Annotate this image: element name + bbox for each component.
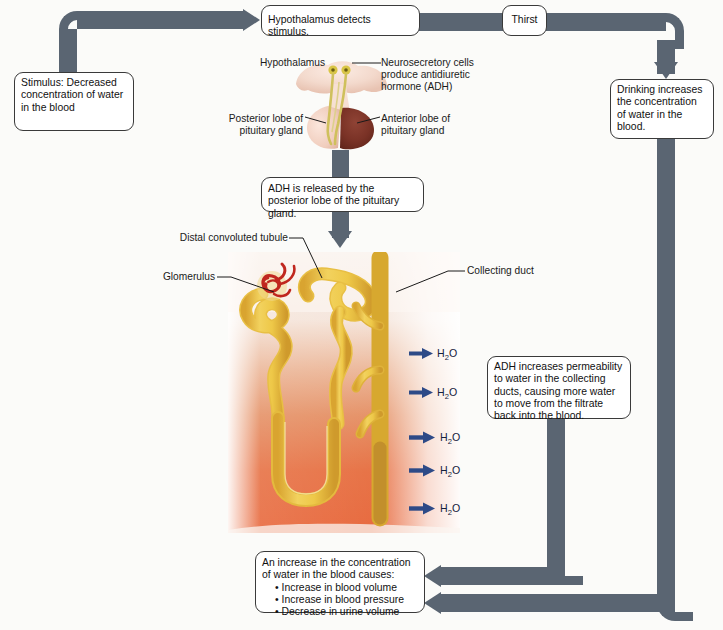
h2o-label-2: H2O [437, 386, 457, 401]
leader-posterior-lobe [305, 112, 327, 126]
arrowhead-to-result-lower [424, 592, 441, 614]
box-hypothalamus-detects[interactable]: Hypothalamus detects stimulus. [261, 5, 420, 36]
h2o-arrow-5 [408, 502, 436, 515]
h2o-label-5: H2O [440, 502, 460, 517]
connector-detects-to-thirst [414, 13, 508, 31]
label-distal-convoluted-tubule: Distal convoluted tubule [158, 232, 288, 244]
box-drinking[interactable]: Drinking increases the concentration of … [610, 79, 714, 139]
label-hypothalamus: Hypothalamus [260, 57, 325, 69]
arrowhead-to-hypothalamus [243, 9, 260, 31]
h2o-arrow-1 [408, 347, 434, 360]
result-heading: An increase in the concentration of wate… [262, 557, 418, 582]
leader-distal-convoluted-tubule [289, 235, 323, 279]
leader-glomerulus [217, 274, 275, 296]
label-collecting-duct: Collecting duct [467, 265, 534, 277]
h2o-label-1: H2O [437, 347, 457, 362]
leader-neurosecretory [352, 58, 382, 68]
label-neurosecretory-cells: Neurosecretory cells produce antidiureti… [381, 57, 501, 94]
box-thirst[interactable]: Thirst [502, 5, 547, 36]
arrowhead-to-drinking [654, 62, 678, 79]
result-bullet-3: Decrease in urine volume [275, 606, 418, 618]
label-anterior-lobe: Anterior lobe of pituitary gland [381, 113, 481, 137]
box-result[interactable]: An increase in the concentration of wate… [255, 551, 425, 613]
h2o-label-4: H2O [440, 464, 460, 479]
connector-drinking-left [440, 594, 675, 612]
box-adh-released[interactable]: ADH is released by the posterior lobe of… [261, 177, 424, 212]
connector-stimulus-right [77, 11, 245, 29]
result-bullet-2: Increase in blood pressure [275, 594, 418, 606]
connector-permeability-down [547, 412, 565, 570]
label-posterior-lobe: Posterior lobe of pituitary gland [208, 113, 303, 137]
adh-feedback-diagram: Hypothalamus Neurosecretory cells produc… [0, 0, 723, 630]
leader-collecting-duct [396, 268, 466, 294]
arrowhead-to-result-upper [424, 565, 441, 587]
connector-drinking-down [657, 137, 675, 607]
label-glomerulus: Glomerulus [140, 271, 215, 283]
leader-anterior-lobe [357, 112, 381, 126]
connector-permeability-left [440, 567, 565, 585]
result-bullet-1: Increase in blood volume [275, 582, 418, 594]
box-stimulus[interactable]: Stimulus: Decreased concentration of wat… [14, 72, 134, 131]
h2o-label-3: H2O [440, 431, 460, 446]
h2o-arrow-2 [408, 386, 434, 399]
h2o-arrow-4 [408, 464, 436, 477]
result-bullet-list: Increase in blood volume Increase in blo… [262, 582, 418, 619]
arrowhead-to-nephron [328, 231, 352, 248]
box-adh-permeability[interactable]: ADH increases permeability to water in t… [487, 356, 631, 419]
h2o-arrow-3 [408, 431, 436, 444]
